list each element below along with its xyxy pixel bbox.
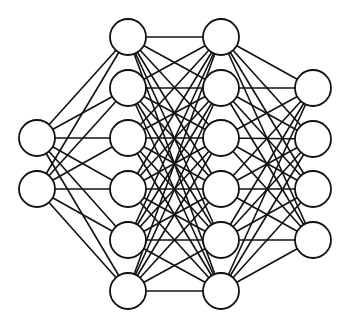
output-layer <box>295 70 331 258</box>
neuron-node <box>295 70 331 106</box>
connection-edge <box>37 37 128 189</box>
neuron-node <box>110 70 146 106</box>
neuron-node <box>203 120 239 156</box>
connections <box>37 37 313 291</box>
neuron-node <box>110 222 146 258</box>
neuron-node <box>110 19 146 55</box>
neuron-node <box>295 121 331 157</box>
neuron-node <box>203 222 239 258</box>
neuron-node <box>203 171 239 207</box>
neuron-node <box>110 273 146 309</box>
neuron-node <box>295 171 331 207</box>
neuron-node <box>19 171 55 207</box>
neuron-node <box>19 120 55 156</box>
connection-edge <box>221 139 313 291</box>
neuron-node <box>203 273 239 309</box>
neuron-node <box>295 222 331 258</box>
hidden-layer-2 <box>203 19 239 309</box>
neuron-node <box>203 70 239 106</box>
neuron-node <box>203 19 239 55</box>
neuron-node <box>110 120 146 156</box>
neuron-node <box>110 171 146 207</box>
input-layer <box>19 120 55 207</box>
hidden-layer-1 <box>110 19 146 309</box>
neural-network-diagram <box>0 0 351 324</box>
